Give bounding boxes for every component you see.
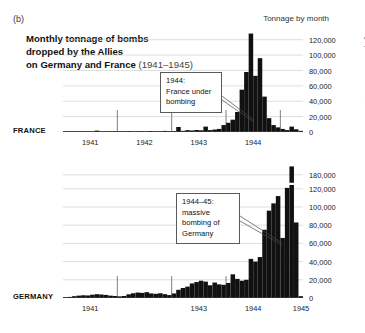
annotation-germany-line-3: bombing of: [182, 218, 234, 229]
annotation-germany-line-4: Germany: [182, 229, 234, 240]
y-tick-label: 60,000: [309, 239, 332, 248]
y-tick-label: 80,000: [309, 66, 332, 75]
y-tick-label: 20,000: [309, 112, 332, 121]
annotation-germany: 1944–45: massive bombing of Germany: [176, 193, 240, 244]
y-tick-label: 180,000: [309, 170, 336, 179]
y-tick-label: 60,000: [309, 81, 332, 90]
x-tick-label: 1941: [82, 304, 98, 313]
annotation-france-line-2: France under: [166, 87, 216, 98]
y-tick-label: 80,000: [309, 221, 332, 230]
x-tick-label: 1943: [191, 304, 207, 313]
y-tick-label: 20,000: [309, 275, 332, 284]
annotation-germany-line-1: 1944–45:: [182, 197, 234, 208]
axis-header: Tonnage by month: [263, 14, 329, 23]
panel-letter: (b): [13, 14, 24, 24]
x-tick-label: 1944: [245, 304, 261, 313]
annotation-france-line-1: 1944:: [166, 76, 216, 87]
y-tick-label: 120,000: [309, 35, 336, 44]
annotation-france-line-3: bombing: [166, 97, 216, 108]
x-tick-label: 1941: [82, 138, 98, 147]
y-tick-label: 120,000: [309, 184, 336, 193]
x-tick-label: 1943: [191, 138, 207, 147]
x-tick-label: 1945: [293, 304, 309, 313]
y-tick-label: 0: [309, 128, 313, 137]
annotation-france: 1944: France under bombing: [160, 72, 222, 113]
y-tick-label: 0: [309, 294, 313, 303]
series-label-france: FRANCE: [13, 126, 46, 135]
series-label-germany: GERMANY: [13, 292, 53, 301]
figure-panel: (b) Monthly tonnage of bombs dropped by …: [0, 0, 365, 333]
x-tick-label: 1942: [136, 138, 152, 147]
y-tick-label: 40,000: [309, 97, 332, 106]
y-tick-label: 100,000: [309, 203, 336, 212]
x-tick-label: 1944: [245, 138, 261, 147]
y-tick-label: 100,000: [309, 51, 336, 60]
annotation-germany-line-2: massive: [182, 208, 234, 219]
y-tick-label: 40,000: [309, 257, 332, 266]
